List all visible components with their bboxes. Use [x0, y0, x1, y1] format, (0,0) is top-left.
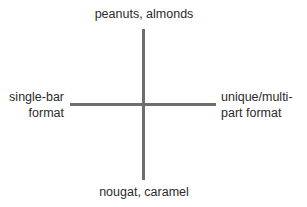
top-axis-label: peanuts, almonds	[86, 6, 202, 22]
bottom-axis-label: nougat, caramel	[92, 184, 196, 200]
horizontal-axis-line	[70, 103, 216, 106]
left-axis-label: single-bar format	[4, 89, 64, 121]
left-axis-label-line: format	[4, 105, 64, 121]
left-axis-label-line: single-bar	[4, 89, 64, 105]
right-axis-label-line: unique/multi-	[221, 89, 307, 105]
right-axis-label: unique/multi- part format	[221, 89, 307, 121]
right-axis-label-line: part format	[221, 105, 307, 121]
